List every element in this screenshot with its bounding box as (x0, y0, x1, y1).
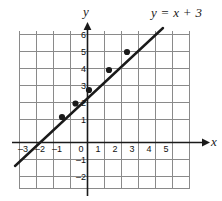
x-tick-label--1: –1 (49, 144, 65, 154)
y-tick-label-6: 6 (72, 30, 86, 40)
data-point (59, 114, 65, 120)
y-tick-label-2: 2 (72, 98, 86, 108)
data-point (124, 49, 130, 55)
y-tick-label-4: 4 (72, 64, 86, 74)
x-tick-label-4: 4 (141, 144, 157, 154)
vertical-gridlines (20, 31, 190, 189)
x-tick-label-0: 0 (73, 144, 89, 154)
data-point (106, 67, 112, 73)
x-tick-label-2: 2 (107, 144, 123, 154)
y-tick-label-5: 5 (72, 47, 86, 57)
x-tick-label--3: –3 (15, 144, 31, 154)
y-tick-label-1: 1 (72, 115, 86, 125)
y-tick-label-3: 3 (72, 81, 86, 91)
coordinate-plane (0, 0, 222, 201)
y-axis-label: y (83, 4, 89, 20)
data-points (59, 49, 130, 120)
equation-label: y = x + 3 (151, 5, 202, 21)
y-tick-label--1: –1 (70, 155, 86, 165)
data-point (86, 87, 92, 93)
x-tick-label-3: 3 (124, 144, 140, 154)
graph-figure: y = x + 3 y x –3 –2 –1 0 1 2 3 4 5 6 5 4… (0, 0, 222, 201)
x-tick-label-1: 1 (90, 144, 106, 154)
x-tick-label--2: –2 (32, 144, 48, 154)
x-axis-label: x (211, 134, 217, 150)
x-tick-label-5: 5 (158, 144, 174, 154)
y-tick-label--2: –2 (70, 172, 86, 182)
